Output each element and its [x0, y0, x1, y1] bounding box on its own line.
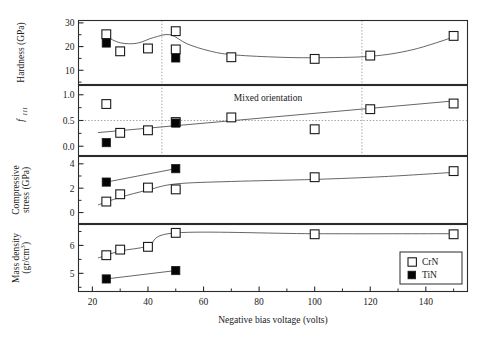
- y-axis-title-density-paren: ): [21, 242, 32, 245]
- data-point-crn: [310, 125, 319, 134]
- x-axis: 20406080100120140Negative bias voltage (…: [88, 287, 454, 326]
- xtick-label: 100: [308, 297, 323, 307]
- data-point-crn: [116, 47, 125, 56]
- data-point-tin: [102, 39, 110, 47]
- data-point-crn: [102, 100, 111, 109]
- xtick-label: 40: [143, 297, 153, 307]
- data-point-crn: [366, 51, 375, 60]
- xtick-label: 20: [88, 297, 98, 307]
- legend-label-tin: TiN: [422, 270, 437, 280]
- legend: CrNTiN: [400, 252, 462, 284]
- ytick-label: 0.5: [63, 116, 75, 126]
- xtick-label: 80: [254, 297, 264, 307]
- y-axis-titles: Hardness (GPa)f111Compressivestress (GPa…: [11, 22, 32, 283]
- data-point-crn: [227, 53, 236, 62]
- data-point-crn: [449, 230, 458, 239]
- ytick-label: 6: [70, 241, 75, 251]
- legend-marker-crn: [408, 258, 416, 266]
- trend-curve-1: [106, 271, 175, 279]
- data-point-tin: [102, 178, 110, 186]
- multi-panel-chart: 1020300.00.51.00245620406080100120140Neg…: [0, 0, 499, 337]
- annotation-label: Mixed orientation: [234, 93, 303, 103]
- y-axis-title-f111: f111: [16, 107, 28, 122]
- data-point-crn: [227, 113, 236, 122]
- y-axis-title-density-line1: Mass density: [11, 233, 21, 283]
- ytick-label: 0.0: [63, 142, 75, 152]
- y-axis-title-density-line2: (gr/cm: [21, 248, 32, 274]
- trend-curve-1: [106, 169, 175, 182]
- panel-frame: [79, 157, 468, 224]
- data-point-tin: [172, 54, 180, 62]
- y-axis-title-stress-line1: Compressive: [11, 165, 21, 215]
- data-point-tin: [102, 275, 110, 283]
- data-point-crn: [310, 55, 319, 64]
- data-point-tin: [172, 266, 180, 274]
- ytick-label: 30: [65, 18, 75, 28]
- data-point-crn: [116, 128, 125, 137]
- y-axis-title-stress-line2: stress (GPa): [21, 167, 32, 213]
- data-point-crn: [144, 44, 153, 53]
- data-point-crn: [116, 190, 125, 199]
- data-point-crn: [171, 185, 180, 194]
- ytick-label: 4: [70, 159, 75, 169]
- xtick-label: 60: [199, 297, 209, 307]
- data-point-crn: [144, 242, 153, 251]
- data-point-crn: [102, 30, 111, 39]
- ytick-label: 1.0: [63, 90, 75, 100]
- data-point-crn: [171, 228, 180, 237]
- figure-container: 1020300.00.51.00245620406080100120140Neg…: [0, 0, 499, 337]
- x-axis-title: Negative bias voltage (volts): [218, 315, 327, 326]
- data-point-crn: [171, 45, 180, 54]
- panel-3: 024: [70, 157, 468, 224]
- data-point-crn: [171, 27, 180, 36]
- y-axis-title-hardness: Hardness (GPa): [16, 22, 27, 82]
- data-point-crn: [102, 197, 111, 206]
- data-point-crn: [310, 230, 319, 239]
- data-point-tin: [172, 119, 180, 127]
- ytick-label: 2: [70, 184, 75, 194]
- y-axis-title-stress: Compressivestress (GPa): [11, 165, 32, 215]
- trend-curve-0: [106, 34, 453, 57]
- xtick-label: 140: [419, 297, 434, 307]
- panel-1: 102030: [65, 18, 468, 84]
- legend-marker-tin: [408, 271, 416, 279]
- data-point-tin: [102, 139, 110, 147]
- data-point-crn: [116, 245, 125, 254]
- ytick-label: 0: [70, 208, 75, 218]
- xtick-label: 120: [363, 297, 378, 307]
- data-point-crn: [102, 251, 111, 260]
- data-point-tin: [172, 165, 180, 173]
- data-point-crn: [144, 183, 153, 192]
- ytick-label: 5: [70, 269, 75, 279]
- data-point-crn: [449, 32, 458, 41]
- y-axis-title-f-main: f: [16, 118, 26, 122]
- y-axis-title-f-subscript: 111: [21, 107, 28, 116]
- y-axis-title-density: Mass density(gr/cm3): [11, 233, 32, 283]
- data-point-crn: [310, 173, 319, 182]
- legend-label-crn: CrN: [422, 257, 439, 267]
- data-point-crn: [449, 167, 458, 176]
- data-point-crn: [449, 99, 458, 108]
- ytick-label: 20: [65, 42, 75, 52]
- data-point-crn: [366, 105, 375, 114]
- ytick-label: 10: [65, 66, 75, 76]
- mixed-orientation-annotation: Mixed orientation: [234, 93, 303, 103]
- panel-frame: [79, 21, 468, 85]
- data-point-crn: [144, 126, 153, 135]
